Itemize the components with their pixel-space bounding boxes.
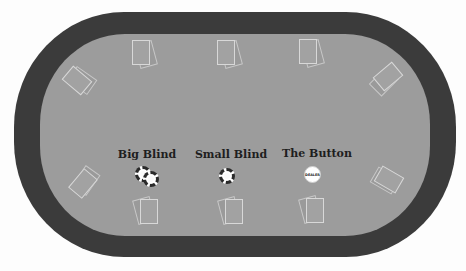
- seat-8-cards[interactable]: [217, 196, 247, 230]
- seat-10-cards[interactable]: [67, 168, 97, 202]
- card-face-down: [299, 39, 317, 64]
- card-face-down: [140, 199, 158, 224]
- small-blind-chip: [219, 168, 235, 184]
- dealer-button-icon: DEALER: [304, 166, 321, 183]
- big-blind-label: Big Blind: [118, 148, 176, 161]
- card-face-down: [225, 199, 243, 224]
- seat-5-cards[interactable]: [370, 62, 400, 96]
- small-blind-label: Small Blind: [195, 148, 267, 161]
- seat-4-cards[interactable]: [298, 38, 328, 72]
- card-face-down: [217, 40, 235, 65]
- card-face-down: [132, 40, 150, 65]
- seat-2-cards[interactable]: [131, 39, 161, 73]
- seat-7-cards[interactable]: [298, 195, 328, 229]
- seat-9-cards[interactable]: [132, 196, 162, 230]
- seat-6-cards[interactable]: [372, 166, 402, 200]
- the-button-label: The Button: [282, 147, 352, 160]
- card-face-down: [306, 198, 324, 223]
- seat-3-cards[interactable]: [216, 39, 246, 73]
- seat-1-cards[interactable]: [64, 66, 94, 100]
- big-blind-chip-front: [143, 171, 159, 187]
